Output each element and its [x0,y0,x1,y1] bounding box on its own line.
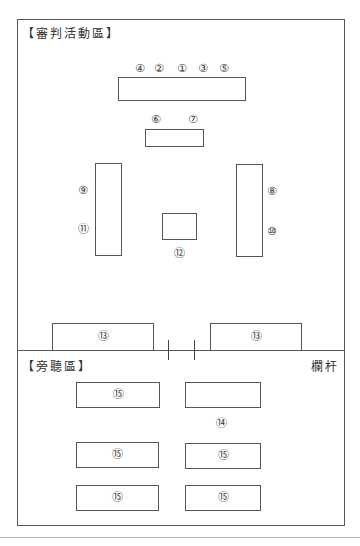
judge-bench [118,77,246,101]
gallery-seat-row1-left: ⑮ [76,382,160,408]
gallery-seat-row2-right: ⑮ [185,443,261,469]
gate-right-post [194,340,195,360]
marker-15: ⑮ [111,388,125,402]
gate-left-post [168,340,169,360]
marker-13-left: ⑬ [96,330,110,344]
marker-9: ⑨ [76,184,90,198]
right-party-table [236,164,263,257]
gallery-label: 【旁聽區】 [22,357,92,374]
gallery-seat-row3-right: ⑮ [185,485,261,511]
railing-divider [17,350,345,351]
marker-13-right: ⑬ [249,330,263,344]
marker-15: ⑮ [216,449,230,463]
marker-15: ⑮ [111,491,125,505]
railing-label: 欄杆 [311,357,339,374]
marker-15: ⑮ [111,448,125,462]
marker-2: ② [152,62,166,76]
marker-1: ① [175,62,189,76]
marker-4: ④ [133,62,147,76]
marker-3: ③ [196,62,210,76]
seat-13-left: ⑬ [52,323,154,351]
gallery-seat-row2-left: ⑮ [76,442,159,468]
marker-14: ⑭ [214,417,228,431]
gallery-seat-row1-right [185,382,261,408]
marker-5: ⑤ [217,62,231,76]
marker-6: ⑥ [149,113,163,127]
marker-12: ⑫ [172,247,186,261]
clerk-desk [145,129,204,147]
marker-15: ⑮ [216,491,230,505]
seat-13-right: ⑬ [210,323,302,351]
page-rule [0,537,360,538]
trial-area-label: 【審判活動區】 [22,24,120,41]
left-party-table [95,163,122,256]
marker-11: ⑪ [76,223,90,237]
marker-10: ⑩ [265,225,279,239]
gallery-seat-row3-left: ⑮ [76,485,159,511]
witness-stand [162,213,197,240]
marker-8: ⑧ [265,185,279,199]
marker-7: ⑦ [186,113,200,127]
